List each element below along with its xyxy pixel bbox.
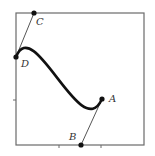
point-d	[13, 54, 18, 59]
label-a: A	[108, 93, 116, 104]
bezier-diagram: A B C D	[0, 0, 155, 156]
point-a	[99, 96, 104, 101]
label-b: B	[68, 131, 76, 142]
plot-frame	[16, 13, 144, 145]
point-c	[31, 10, 36, 15]
point-b	[78, 142, 83, 147]
label-d: D	[20, 58, 29, 69]
label-c: C	[36, 16, 44, 27]
